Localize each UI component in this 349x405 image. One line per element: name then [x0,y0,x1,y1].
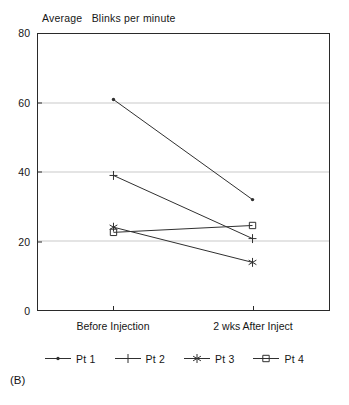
data-point-marker [249,234,257,243]
data-point-marker [56,357,59,360]
legend-item-pt-3[interactable]: Pt 3 [184,352,234,365]
data-point-marker [112,98,115,101]
legend-symbol-square-icon [253,352,279,365]
panel-label: (B) [10,374,25,386]
legend-label: Pt 2 [146,353,165,365]
data-point-marker [251,198,254,201]
x-tick-mark [113,306,114,311]
chart-title: Average Blinks per minute [42,12,176,24]
legend-symbol-asterisk-icon [184,352,210,365]
legend-item-pt-4[interactable]: Pt 4 [253,352,303,365]
y-tick-mark [37,172,42,173]
chart-legend: Pt 1Pt 2Pt 3Pt 4 [0,352,349,365]
series-pt-4 [110,222,255,235]
data-point-marker [249,258,257,267]
y-tick-mark [37,241,42,242]
plot-area [37,33,330,311]
x-tick-mark [253,306,254,311]
plot-canvas [38,34,329,310]
legend-label: Pt 3 [215,353,234,365]
legend-item-pt-2[interactable]: Pt 2 [115,352,165,365]
series-pt-1 [112,98,254,201]
y-tick-label: 40 [4,166,30,178]
data-point-marker [124,354,132,363]
figure-panel-b: Average Blinks per minute 020406080 Befo… [0,0,349,405]
legend-label: Pt 1 [76,353,95,365]
y-tick-label: 80 [4,27,30,39]
y-tick-label: 60 [4,97,30,109]
y-tick-label: 20 [4,236,30,248]
legend-symbol-plus-icon [115,352,141,365]
legend-item-pt-1[interactable]: Pt 1 [45,352,95,365]
x-tick-label: Before Injection [77,320,150,332]
legend-symbol-dot-icon [45,352,71,365]
legend-label: Pt 4 [284,353,303,365]
x-tick-label: 2 wks After Inject [213,320,292,332]
y-tick-mark [37,102,42,103]
y-tick-label: 0 [4,305,30,317]
